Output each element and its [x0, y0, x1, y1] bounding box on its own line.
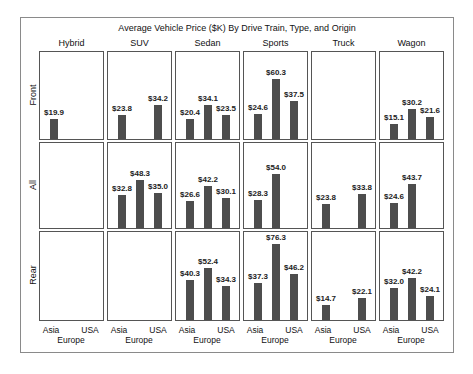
bar-value-label: $24.1 — [420, 285, 440, 294]
panel-all-sedan: $26.6$42.2$30.1 — [175, 142, 240, 229]
bar-asia — [186, 201, 194, 228]
bar-europe — [272, 79, 280, 139]
bar-usa — [426, 296, 434, 320]
bar-usa — [154, 105, 162, 139]
x-tick-asia: Asia — [111, 325, 128, 335]
bar-value-label: $14.7 — [316, 294, 336, 303]
bar-asia — [254, 114, 262, 139]
panel-front-truck — [311, 51, 376, 140]
bar-asia — [118, 115, 126, 139]
panel-rear-sedan: $40.3$52.4$34.3 — [175, 231, 240, 321]
bar-value-label: $46.2 — [284, 263, 304, 272]
column-header-wagon: Wagon — [379, 38, 444, 48]
bar-asia — [186, 280, 194, 320]
x-tick-usa: USA — [81, 325, 98, 335]
bar-value-label: $60.3 — [266, 68, 286, 77]
bar-value-label: $37.3 — [248, 272, 268, 281]
bar-value-label: $32.8 — [112, 184, 132, 193]
bar-europe — [136, 180, 144, 228]
bar-value-label: $42.2 — [402, 267, 422, 276]
x-tick-europe: Europe — [193, 335, 220, 345]
x-tick-usa: USA — [285, 325, 302, 335]
x-tick-usa: USA — [353, 325, 370, 335]
bar-asia — [186, 119, 194, 139]
bar-usa — [358, 298, 366, 320]
bar-value-label: $20.4 — [180, 108, 200, 117]
panel-front-suv: $23.8$34.2 — [107, 51, 172, 140]
bar-value-label: $37.5 — [284, 90, 304, 99]
column-header-truck: Truck — [311, 38, 376, 48]
x-tick-usa: USA — [149, 325, 166, 335]
bar-asia — [50, 119, 58, 139]
bar-usa — [358, 194, 366, 228]
bar-europe — [408, 278, 416, 320]
bar-value-label: $32.0 — [384, 277, 404, 286]
bar-asia — [390, 203, 398, 228]
bar-europe — [408, 184, 416, 228]
bar-asia — [322, 305, 330, 320]
bar-europe — [204, 268, 212, 320]
bar-europe — [272, 244, 280, 320]
panel-front-sedan: $20.4$34.1$23.5 — [175, 51, 240, 140]
bar-europe — [204, 186, 212, 228]
bar-usa — [222, 115, 230, 139]
panel-front-wagon: $15.1$30.2$21.6 — [379, 51, 444, 140]
x-tick-europe: Europe — [329, 335, 356, 345]
bar-value-label: $34.3 — [216, 275, 236, 284]
x-tick-europe: Europe — [397, 335, 424, 345]
bar-value-label: $23.8 — [316, 193, 336, 202]
bar-value-label: $34.1 — [198, 94, 218, 103]
bar-asia — [254, 283, 262, 320]
chart-title: Average Vehicle Price ($K) By Drive Trai… — [20, 23, 454, 33]
bar-usa — [154, 193, 162, 228]
bar-value-label: $42.2 — [198, 175, 218, 184]
bar-value-label: $33.8 — [352, 183, 372, 192]
x-tick-europe: Europe — [261, 335, 288, 345]
bar-value-label: $43.7 — [402, 173, 422, 182]
bar-asia — [118, 195, 126, 228]
bar-value-label: $19.9 — [44, 108, 64, 117]
bar-value-label: $23.5 — [216, 104, 236, 113]
x-tick-asia: Asia — [179, 325, 196, 335]
bar-europe — [204, 105, 212, 139]
panel-front-sports: $24.6$60.3$37.5 — [243, 51, 308, 140]
x-tick-asia: Asia — [43, 325, 60, 335]
panel-front-hybrid: $19.9 — [39, 51, 104, 140]
bar-asia — [322, 204, 330, 228]
bar-value-label: $28.3 — [248, 189, 268, 198]
bar-value-label: $23.8 — [112, 104, 132, 113]
panel-rear-hybrid — [39, 231, 104, 321]
column-header-sedan: Sedan — [175, 38, 240, 48]
bar-value-label: $40.3 — [180, 269, 200, 278]
panel-all-suv: $32.8$48.3$35.0 — [107, 142, 172, 229]
bar-value-label: $26.6 — [180, 190, 200, 199]
row-header-rear: Rear — [28, 260, 38, 290]
bar-value-label: $35.0 — [148, 182, 168, 191]
x-tick-asia: Asia — [383, 325, 400, 335]
panel-all-hybrid — [39, 142, 104, 229]
panel-rear-sports: $37.3$76.3$46.2 — [243, 231, 308, 321]
column-header-sports: Sports — [243, 38, 308, 48]
x-tick-europe: Europe — [125, 335, 152, 345]
bar-asia — [254, 200, 262, 228]
bar-value-label: $52.4 — [198, 257, 218, 266]
panel-rear-suv — [107, 231, 172, 321]
bar-value-label: $24.6 — [248, 103, 268, 112]
x-tick-asia: Asia — [247, 325, 264, 335]
bar-value-label: $24.6 — [384, 192, 404, 201]
panel-all-truck: $23.8$33.8 — [311, 142, 376, 229]
row-header-all: All — [28, 170, 38, 200]
x-tick-asia: Asia — [315, 325, 332, 335]
bar-value-label: $15.1 — [384, 113, 404, 122]
bar-value-label: $76.3 — [266, 233, 286, 242]
bar-value-label: $21.6 — [420, 106, 440, 115]
column-header-suv: SUV — [107, 38, 172, 48]
bar-usa — [290, 101, 298, 139]
bar-value-label: $34.2 — [148, 94, 168, 103]
bar-usa — [222, 286, 230, 320]
panel-all-sports: $28.3$54.0 — [243, 142, 308, 229]
x-tick-usa: USA — [421, 325, 438, 335]
row-header-front: Front — [28, 80, 38, 110]
bar-value-label: $54.0 — [266, 163, 286, 172]
bar-asia — [390, 288, 398, 320]
